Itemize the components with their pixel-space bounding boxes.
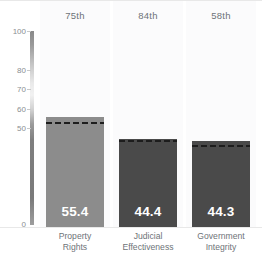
y-tick-label-100: 100 [4, 28, 26, 36]
percentile-label-judicial-effectiveness: 84th [113, 9, 183, 23]
y-tick-label-50: 50 [4, 125, 26, 133]
percentile-label-government-integrity: 58th [186, 9, 256, 23]
y-tick-mark-60 [27, 109, 31, 110]
y-tick-label-60: 60 [4, 106, 26, 114]
y-tick-mark-70 [27, 89, 31, 90]
category-label-property-rights: Property Rights [38, 231, 112, 252]
bar-judicial-effectiveness: 44.4 [119, 139, 177, 227]
average-marker-property-rights [46, 122, 104, 124]
bar-value-property-rights: 55.4 [46, 205, 104, 219]
bar-government-integrity: 44.3 [192, 141, 250, 227]
bottom-divider [0, 227, 262, 228]
category-label-line2: Rights [38, 242, 112, 253]
bar-chart: 75th 84th 58th 100 80 70 60 50 0 55.4 44… [0, 0, 262, 260]
category-label-government-integrity: Government Integrity [184, 231, 258, 252]
average-marker-government-integrity [192, 145, 250, 147]
y-tick-label-80: 80 [4, 67, 26, 75]
category-label-line2: Effectiveness [111, 242, 185, 253]
bar-value-judicial-effectiveness: 44.4 [119, 205, 177, 219]
y-tick-mark-100 [27, 31, 31, 32]
bar-property-rights: 55.4 [46, 117, 104, 227]
category-label-line2: Integrity [184, 242, 258, 253]
category-label-judicial-effectiveness: Judicial Effectiveness [111, 231, 185, 252]
y-tick-mark-80 [27, 70, 31, 71]
category-label-line1: Government [184, 231, 258, 242]
y-tick-label-70: 70 [4, 86, 26, 94]
average-marker-judicial-effectiveness [119, 140, 177, 142]
y-tick-mark-50 [27, 128, 31, 129]
category-label-line1: Judicial [111, 231, 185, 242]
percentile-header-row: 75th 84th 58th [0, 9, 262, 23]
bar-value-government-integrity: 44.3 [192, 205, 250, 219]
category-label-line1: Property [38, 231, 112, 242]
percentile-label-property-rights: 75th [40, 9, 110, 23]
